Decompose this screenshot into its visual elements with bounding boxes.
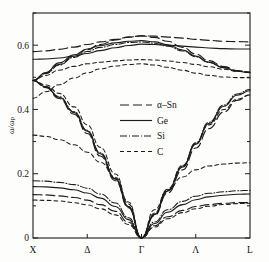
x-tick-label-L: L (247, 245, 253, 255)
y-tick-label: 0.4 (17, 105, 29, 115)
curve-Sn-LA (33, 81, 250, 239)
x-tick-label-Λ: Λ (192, 245, 199, 255)
curve-layer (33, 36, 250, 238)
phonon-dispersion-figure: α–SnGeSiC 00.20.40.6XΔΓΛLω/ωₚ (0, 0, 269, 262)
curve-Si-TA (33, 181, 250, 238)
legend-label-3: C (157, 147, 163, 157)
x-tick-label-X: X (30, 245, 37, 255)
x-tick-label-Δ: Δ (84, 245, 90, 255)
curve-Ge-TA (33, 187, 250, 238)
curve-C-TA-upper (33, 135, 250, 238)
plot-canvas: α–SnGeSiC 00.20.40.6XΔΓΛLω/ωₚ (0, 0, 269, 262)
curve-C-TA-lower (33, 200, 250, 238)
x-tick-label-Γ: Γ (139, 245, 145, 255)
legend-label-0: α–Sn (157, 100, 177, 110)
curve-Sn-TA (33, 195, 250, 238)
y-axis-title: ω/ωₚ (6, 116, 16, 134)
y-tick-label: 0.2 (17, 169, 29, 179)
curve-Ge-LO/TO-upper (33, 44, 250, 59)
curve-Ge-TO-lower (33, 41, 250, 81)
y-tick-label: 0.6 (17, 41, 29, 51)
legend-label-2: Si (157, 131, 165, 141)
legend-label-1: Ge (157, 116, 168, 126)
curve-Sn-TO-lower (33, 36, 250, 81)
legend-layer: α–SnGeSiC (120, 100, 177, 156)
y-tick-label: 0 (24, 233, 29, 243)
